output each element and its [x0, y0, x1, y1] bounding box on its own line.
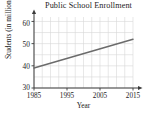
y-axis-label: Students (in millions) [3, 0, 15, 69]
x-tick-label-2005: 2005 [87, 92, 113, 100]
y-axis-label-wrapper: Students (in millions) [3, 0, 15, 69]
plot-svg [34, 17, 133, 88]
axis-tick-marks [32, 21, 134, 90]
chart-container: Public School Enrollment Students (in mi… [0, 0, 151, 114]
y-tick-label-50: 50 [15, 41, 30, 48]
vertical-gridlines [34, 17, 133, 88]
chart-title: Public School Enrollment [38, 1, 139, 11]
y-tick-label-40: 40 [15, 63, 30, 70]
x-tick-label-1995: 1995 [54, 92, 80, 100]
y-tick-label-60: 60 [15, 20, 30, 27]
y-tick-label-30: 30 [15, 84, 30, 91]
plot-area [34, 17, 133, 88]
x-tick-label-2015: 2015 [120, 92, 146, 100]
x-axis-label: Year [33, 101, 134, 110]
x-tick-label-1985: 1985 [21, 92, 47, 100]
